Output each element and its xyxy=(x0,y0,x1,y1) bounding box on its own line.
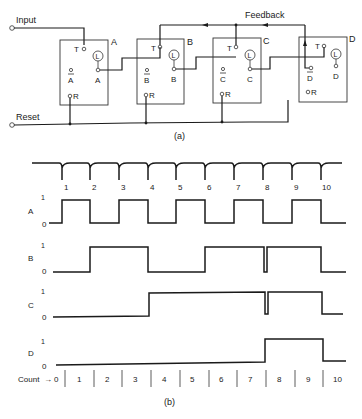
svg-text:10: 10 xyxy=(333,375,342,384)
svg-text:0: 0 xyxy=(42,313,47,322)
svg-text:2: 2 xyxy=(105,375,110,384)
svg-text:9: 9 xyxy=(294,183,299,192)
svg-text:D: D xyxy=(333,72,339,81)
svg-text:B: B xyxy=(187,37,193,47)
svg-text:0: 0 xyxy=(54,375,59,384)
svg-text:T: T xyxy=(74,45,79,54)
svg-text:1: 1 xyxy=(41,194,45,201)
flipflop-c: C T L C C R xyxy=(213,24,270,124)
pulse-labels: 1 2 3 4 5 6 7 8 9 10 xyxy=(64,183,331,192)
svg-text:3: 3 xyxy=(121,183,126,192)
svg-text:L: L xyxy=(248,52,252,59)
count-label: Count xyxy=(18,375,40,384)
svg-text:4: 4 xyxy=(150,183,155,192)
input-label: Input xyxy=(16,15,37,25)
signal-b-waveform xyxy=(53,247,346,272)
decade-counter-figure: Input Reset A T L A A R xyxy=(0,0,362,419)
svg-text:1: 1 xyxy=(64,183,69,192)
svg-text:7: 7 xyxy=(248,375,253,384)
signal-d-label: D xyxy=(28,349,34,358)
arrow-left-icon xyxy=(262,23,268,27)
svg-text:4: 4 xyxy=(162,375,167,384)
signal-c-label: C xyxy=(28,301,34,310)
arrow-up-icon xyxy=(303,40,307,46)
svg-text:0: 0 xyxy=(42,267,47,276)
signal-c-waveform xyxy=(53,292,343,317)
svg-text:1: 1 xyxy=(77,375,82,384)
svg-text:L: L xyxy=(96,53,100,60)
svg-text:6: 6 xyxy=(219,375,224,384)
svg-text:8: 8 xyxy=(277,375,282,384)
svg-text:10: 10 xyxy=(322,183,331,192)
svg-text:T: T xyxy=(227,44,232,53)
svg-text:D: D xyxy=(307,74,313,83)
svg-text:8: 8 xyxy=(265,183,270,192)
circuit-diagram: Input Reset A T L A A R xyxy=(10,10,356,141)
svg-text:6: 6 xyxy=(207,183,212,192)
svg-text:→: → xyxy=(44,375,52,384)
caption-b: (b) xyxy=(164,397,175,407)
reset-label: Reset xyxy=(16,112,40,122)
svg-text:R: R xyxy=(225,90,231,99)
svg-text:B: B xyxy=(144,76,149,85)
svg-text:0: 0 xyxy=(42,362,47,371)
clock-waveform xyxy=(32,163,342,180)
svg-text:7: 7 xyxy=(236,183,241,192)
svg-text:R: R xyxy=(311,88,317,97)
feedback-wire xyxy=(305,25,309,68)
signal-a-label: A xyxy=(28,207,34,216)
signal-a-waveform xyxy=(49,200,346,223)
svg-text:A: A xyxy=(95,76,101,85)
input-wire xyxy=(14,28,84,45)
svg-text:1: 1 xyxy=(41,338,45,345)
reset-terminal xyxy=(10,123,15,128)
svg-text:D: D xyxy=(349,34,356,44)
timing-diagram: 1 2 3 4 5 6 7 8 9 10 1 A 0 1 B 0 1 C 0 1… xyxy=(18,163,346,407)
svg-text:A: A xyxy=(111,37,117,47)
svg-text:L: L xyxy=(172,52,176,59)
feedback-label: Feedback xyxy=(245,10,285,20)
svg-text:1: 1 xyxy=(41,242,45,249)
svg-text:0: 0 xyxy=(42,220,47,229)
flipflop-a: A T L A A R xyxy=(60,37,117,125)
svg-text:C: C xyxy=(220,75,226,84)
wire-b-to-c xyxy=(176,57,236,69)
svg-text:T: T xyxy=(151,44,156,53)
svg-text:L: L xyxy=(334,51,338,58)
wire-c-to-d xyxy=(252,47,324,69)
svg-text:B: B xyxy=(171,75,176,84)
svg-text:9: 9 xyxy=(306,375,311,384)
input-terminal xyxy=(10,26,15,31)
svg-text:5: 5 xyxy=(190,375,195,384)
svg-text:3: 3 xyxy=(133,375,138,384)
count-values: 0 1 2 3 4 5 6 7 8 9 10 xyxy=(54,375,342,384)
svg-text:A: A xyxy=(68,76,74,85)
signal-d-waveform xyxy=(56,339,346,365)
svg-text:T: T xyxy=(315,42,320,51)
svg-text:C: C xyxy=(263,36,270,46)
signal-b-label: B xyxy=(28,254,33,263)
svg-text:5: 5 xyxy=(178,183,183,192)
caption-a: (a) xyxy=(174,131,185,141)
svg-text:R: R xyxy=(149,91,155,100)
arrow-left-icon xyxy=(202,23,208,27)
svg-text:2: 2 xyxy=(92,183,97,192)
svg-text:R: R xyxy=(73,92,79,101)
svg-text:1: 1 xyxy=(41,288,45,295)
svg-text:C: C xyxy=(247,75,253,84)
